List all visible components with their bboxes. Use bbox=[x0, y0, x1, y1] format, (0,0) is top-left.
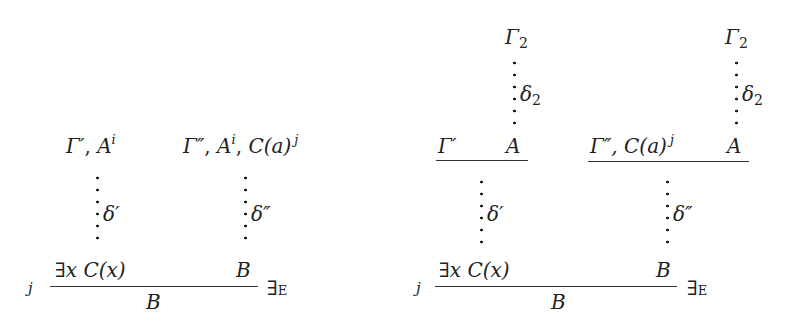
left-derivation-dots-1 bbox=[96, 172, 99, 248]
left-minor-premise-2: B bbox=[236, 260, 251, 280]
left-minor-premise-1: ∃x C(x) bbox=[55, 260, 126, 280]
formula-c-a: C(a) bbox=[248, 134, 291, 158]
right-derivation-label-1: δ′ bbox=[487, 204, 504, 224]
gamma-double-prime: Γ″ bbox=[183, 134, 204, 158]
right-discharge-index: j bbox=[416, 281, 421, 296]
assumption-mark: j bbox=[294, 132, 298, 147]
left-premise-2: Γ″, Ai, C(a)j bbox=[183, 136, 298, 156]
comma: , bbox=[84, 134, 97, 158]
gamma: Γ bbox=[505, 25, 519, 49]
right-upper-rule-2-right: A bbox=[727, 136, 741, 156]
right-upper-rule-1 bbox=[436, 160, 528, 161]
comma: , bbox=[236, 134, 249, 158]
right-upper-rule-1-left: Γ′ bbox=[438, 136, 456, 156]
right-top-dots-2 bbox=[735, 57, 738, 129]
right-top-gamma-1: Γ2 bbox=[505, 27, 528, 47]
left-discharge-index: j bbox=[28, 281, 33, 296]
premise-gamma-c-a: Γ″, C(a) bbox=[590, 134, 667, 158]
formula-a: A bbox=[97, 134, 111, 158]
assumption-mark: i bbox=[112, 132, 116, 147]
formula-a: A bbox=[217, 134, 231, 158]
left-conclusion: B bbox=[146, 292, 161, 312]
right-top-gamma-2: Γ2 bbox=[725, 27, 748, 47]
left-derivation-dots-2 bbox=[244, 172, 247, 248]
right-upper-rule-2 bbox=[588, 161, 749, 162]
right-conclusion: B bbox=[551, 292, 566, 312]
delta-index: 2 bbox=[532, 92, 541, 108]
right-upper-rule-1-right: A bbox=[506, 136, 520, 156]
exists-symbol: ∃ bbox=[687, 276, 698, 300]
right-derivation-dots-2 bbox=[666, 176, 669, 248]
comma: , bbox=[204, 134, 217, 158]
delta: δ bbox=[742, 82, 754, 106]
right-top-derivation-1: δ2 bbox=[520, 84, 541, 104]
left-inference-rule bbox=[50, 286, 258, 287]
elimination-letter: E bbox=[278, 283, 288, 298]
right-top-derivation-2: δ2 bbox=[742, 84, 763, 104]
gamma: Γ bbox=[725, 25, 739, 49]
exists-symbol: ∃ bbox=[267, 276, 278, 300]
left-derivation-label-1: δ′ bbox=[103, 204, 120, 224]
gamma-index: 2 bbox=[739, 35, 748, 51]
left-rule-name: ∃E bbox=[267, 278, 287, 298]
right-inference-rule bbox=[435, 286, 677, 287]
right-top-dots-1 bbox=[513, 57, 516, 129]
left-premise-1: Γ′, Ai bbox=[66, 136, 116, 156]
right-minor-premise-1: ∃x C(x) bbox=[439, 260, 510, 280]
delta-index: 2 bbox=[754, 92, 763, 108]
right-derivation-dots-1 bbox=[480, 176, 483, 248]
gamma-prime: Γ′ bbox=[66, 134, 84, 158]
left-derivation-label-2: δ″ bbox=[251, 204, 271, 224]
assumption-mark: j bbox=[670, 132, 674, 147]
right-minor-premise-2: B bbox=[656, 260, 671, 280]
right-upper-rule-2-left: Γ″, C(a)j bbox=[590, 136, 674, 156]
gamma-index: 2 bbox=[519, 35, 528, 51]
right-rule-name: ∃E bbox=[687, 278, 707, 298]
delta: δ bbox=[520, 82, 532, 106]
right-derivation-label-2: δ″ bbox=[673, 204, 693, 224]
elimination-letter: E bbox=[698, 283, 708, 298]
